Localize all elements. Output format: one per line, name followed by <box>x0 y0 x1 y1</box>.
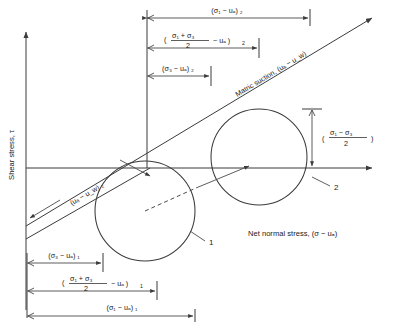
axis-group <box>26 32 372 310</box>
mohr-circle-diagram: Shear stress, τ Net normal stress, (σ − … <box>0 0 400 334</box>
dimension-sigma1-minus-ua-1: (σ₁ − uₐ) ₁ <box>27 303 193 319</box>
suction-label-2: (uₐ − u_w) ₂ <box>68 180 105 207</box>
mean-2-subscript: 2 <box>242 40 245 46</box>
circle-label-2: 2 <box>334 183 339 192</box>
deviator-denominator: 2 <box>344 139 348 148</box>
circle-label-1: 1 <box>209 238 214 247</box>
y-axis-label: Shear stress, τ <box>7 130 16 180</box>
mean-1-open-paren: ( <box>62 278 65 287</box>
suction-baseline <box>26 168 150 239</box>
tangency-arrow <box>196 166 249 188</box>
dimension-label-sigma1-1: (σ₁ − uₐ) ₁ <box>107 303 139 312</box>
dimension-label-sigma1-2: (σ₁ − uₐ) ₂ <box>211 6 243 15</box>
x-axis-label: Net normal stress, (σ − uₐ) <box>248 229 338 238</box>
radius-dashed-circle-1 <box>145 188 196 211</box>
callout-leader-1 <box>190 231 205 241</box>
dimension-label-sigma3-2: (σ₃ − uₐ) ₂ <box>162 64 194 73</box>
dimension-sigma3-minus-ua-2: (σ₃ − uₐ) ₂ <box>147 64 209 79</box>
dimension-sigma1-minus-ua-2: (σ₁ − uₐ) ₂ <box>147 6 308 21</box>
dimension-label-sigma3-1: (σ₃ − uₐ) ₁ <box>48 251 80 260</box>
dimension-sigma3-minus-ua-1: (σ₃ − uₐ) ₁ <box>27 251 101 266</box>
deviator-open-paren: ( <box>322 134 325 143</box>
mean-1-tail: − uₐ ) <box>111 279 128 288</box>
mean-2-open-paren: ( <box>164 35 167 44</box>
mean-2-numerator: σ₁ + σ₃ <box>172 31 194 40</box>
mean-1-denominator: 2 <box>84 284 88 293</box>
mean-2-denominator: 2 <box>186 41 190 50</box>
mohr-circle-2 <box>211 109 307 205</box>
dimension-deviator-half-2: ( σ₁ − σ₃ 2 ) <box>302 109 373 166</box>
suction-leader-lower <box>30 200 60 218</box>
mean-1-numerator: σ₁ + σ₃ <box>70 274 92 283</box>
callout-leader-2 <box>312 177 330 186</box>
mean-2-tail: − uₐ ) <box>213 36 230 45</box>
dimension-mean-stress-2: ( σ₁ + σ₃ 2 − uₐ ) 2 <box>147 31 257 51</box>
deviator-close-paren: ) <box>371 134 373 143</box>
mean-1-subscript: 1 <box>140 283 143 289</box>
deviator-numerator: σ₁ − σ₃ <box>330 128 352 137</box>
matric-suction-label: Matric suction, (uₐ − u_w) <box>234 49 308 99</box>
figure-canvas: Shear stress, τ Net normal stress, (σ − … <box>0 0 400 334</box>
dimension-mean-stress-1: ( σ₁ + σ₃ 2 − uₐ ) 1 <box>27 274 155 294</box>
